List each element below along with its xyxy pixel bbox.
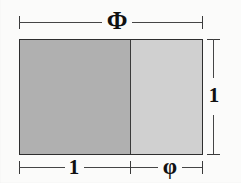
right-dimension-line-bottom — [213, 115, 214, 155]
golden-ratio-diagram: Φ 1 1 φ — [0, 0, 241, 183]
bottom-right-tick-end — [202, 161, 203, 174]
bottom-right-line-b — [182, 167, 203, 168]
bottom-right-line-a — [131, 167, 158, 168]
top-dimension-line-left — [19, 22, 102, 23]
right-dimension-line-top — [213, 39, 214, 78]
top-dimension-tick-right — [202, 16, 203, 29]
golden-rectangle-outline — [19, 39, 203, 155]
bottom-left-line-a — [19, 167, 65, 168]
right-dimension-tick-bottom — [207, 154, 220, 155]
bottom-left-line-b — [84, 167, 130, 168]
top-dimension-line-right — [132, 22, 203, 23]
label-phi-uppercase: Φ — [101, 8, 133, 33]
label-height-one: 1 — [205, 85, 223, 106]
label-width-one: 1 — [64, 157, 84, 178]
label-phi-lowercase: φ — [157, 155, 183, 178]
